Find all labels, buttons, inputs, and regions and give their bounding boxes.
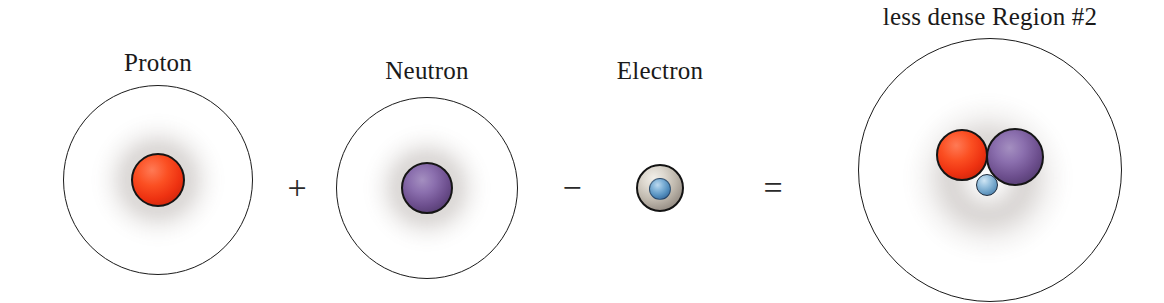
atomic-equation-diagram: Proton + Neutron − Electron = less dense…: [0, 0, 1164, 303]
equals-operator: =: [763, 171, 782, 205]
neutron-nucleus-sphere: [401, 162, 453, 214]
result-proton-sphere: [936, 129, 988, 181]
result-electron-sphere: [976, 174, 998, 196]
proton-nucleus-sphere: [131, 153, 185, 207]
electron-label: Electron: [617, 58, 703, 83]
plus-operator: +: [287, 171, 306, 205]
result-region-label: less dense Region #2: [883, 4, 1097, 29]
proton-label: Proton: [124, 50, 192, 75]
electron-core-sphere: [649, 178, 671, 200]
neutron-label: Neutron: [385, 58, 468, 83]
minus-operator: −: [562, 171, 581, 205]
